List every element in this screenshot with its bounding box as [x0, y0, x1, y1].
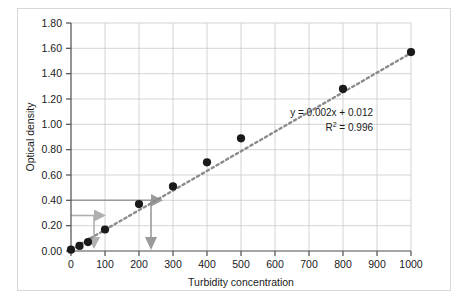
x-tick-label: 800 — [334, 258, 352, 270]
y-tick-label: 0.40 — [42, 194, 63, 206]
r-squared-label: R2 = 0.996 — [325, 121, 373, 133]
data-point — [84, 238, 92, 246]
r-squared-suffix: = 0.996 — [337, 122, 374, 133]
y-tick-label: 0.20 — [42, 219, 63, 231]
x-tick-label: 0 — [68, 258, 74, 270]
y-tick-marks — [66, 23, 71, 251]
data-point — [169, 182, 177, 190]
x-tick-labels: 0 100 200 300 400 500 600 700 800 900 10… — [68, 258, 423, 270]
x-tick-label: 900 — [368, 258, 386, 270]
y-axis-title: Optical density — [24, 102, 36, 172]
y-tick-label: 1.60 — [42, 42, 63, 54]
scatter-plot: 0.00 0.20 0.40 0.60 0.80 1.00 1.20 1.40 … — [18, 9, 450, 290]
x-tick-label: 300 — [164, 258, 182, 270]
r-squared-prefix: R — [325, 122, 332, 133]
y-tick-label: 1.40 — [42, 67, 63, 79]
x-axis-title: Turbidity concentration — [188, 276, 294, 288]
x-tick-label: 100 — [96, 258, 114, 270]
chart-figure: 0.00 0.20 0.40 0.60 0.80 1.00 1.20 1.40 … — [17, 8, 451, 291]
data-point — [101, 225, 109, 233]
y-tick-labels: 0.00 0.20 0.40 0.60 0.80 1.00 1.20 1.40 … — [42, 17, 63, 257]
x-tick-label: 700 — [300, 258, 318, 270]
x-tick-label: 400 — [198, 258, 216, 270]
trendline-equation: y = 0.002x + 0.012 — [290, 107, 373, 118]
y-tick-label: 1.00 — [42, 118, 63, 130]
data-point — [67, 246, 75, 254]
y-tick-label: 0.60 — [42, 169, 63, 181]
data-point — [75, 242, 83, 250]
x-tick-label: 1000 — [399, 258, 423, 270]
y-tick-label: 0.80 — [42, 143, 63, 155]
x-tick-label: 600 — [266, 258, 284, 270]
x-tick-label: 500 — [232, 258, 250, 270]
data-point — [203, 158, 211, 166]
data-point — [407, 48, 415, 56]
data-point — [339, 85, 347, 93]
y-tick-label: 0.00 — [42, 245, 63, 257]
x-tick-marks — [71, 251, 411, 256]
x-tick-label: 200 — [130, 258, 148, 270]
y-tick-label: 1.80 — [42, 17, 63, 29]
y-tick-label: 1.20 — [42, 93, 63, 105]
data-point — [237, 134, 245, 142]
data-point — [135, 200, 143, 208]
